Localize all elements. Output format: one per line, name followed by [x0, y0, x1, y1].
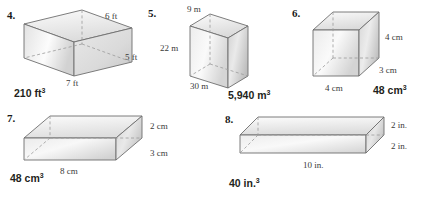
answer-5-exponent: 3: [267, 89, 271, 96]
dimension-label-6-width: 4 cm: [325, 84, 343, 93]
answer-8-value: 40 in.: [229, 177, 256, 189]
figure-prism-6: [311, 10, 387, 88]
answer-6-value: 48 cm: [373, 84, 403, 96]
answer-4-exponent: 3: [41, 87, 45, 94]
dimension-label-7-width: 8 cm: [60, 167, 78, 176]
answer-7: 48 cm3: [10, 173, 44, 184]
dimension-label-6-depth: 3 cm: [379, 66, 397, 75]
problem-4: 4.: [0, 0, 145, 105]
dimension-label-7-depth: 3 cm: [150, 149, 168, 158]
problem-8: 8.: [195, 105, 421, 200]
figure-prism-7: [22, 112, 148, 170]
dimension-label-5-width: 30 m: [190, 82, 208, 91]
dimension-label-5-depth: 9 m: [187, 5, 201, 14]
problem-number-7: 7.: [7, 113, 15, 124]
problem-7: 7.: [0, 105, 195, 200]
dimension-label-7-height: 2 cm: [150, 122, 168, 131]
answer-8: 40 in.3: [229, 178, 260, 189]
problem-number-6: 6.: [292, 8, 300, 19]
dimension-label-8-depth: 2 in.: [391, 142, 407, 151]
figure-prism-5: [188, 12, 273, 92]
answer-7-value: 48 cm: [10, 172, 40, 184]
dimension-label-8-height: 2 in.: [391, 121, 407, 130]
dimension-label-4-height: 5 ft: [125, 53, 137, 62]
worksheet-page: 4.: [0, 0, 421, 200]
problem-5: 5.: [143, 0, 288, 105]
dimension-label-6-height: 4 cm: [385, 33, 403, 42]
figure-prism-8: [238, 113, 390, 161]
problem-6: 6.: [287, 0, 421, 105]
answer-6-exponent: 3: [403, 84, 407, 91]
dimension-label-4-width: 7 ft: [66, 79, 78, 88]
dimension-label-5-height: 22 m: [160, 44, 178, 53]
answer-5-value: 5,940 m: [228, 89, 267, 101]
answer-5: 5,940 m3: [228, 90, 270, 101]
problem-number-4: 4.: [7, 10, 15, 21]
answer-8-exponent: 3: [256, 177, 260, 184]
answer-7-exponent: 3: [40, 172, 44, 179]
dimension-label-4-depth: 6 ft: [105, 12, 117, 21]
answer-4: 210 ft3: [14, 88, 45, 99]
problem-number-5: 5.: [148, 8, 156, 19]
dimension-label-8-width: 10 in.: [303, 161, 324, 170]
answer-6: 48 cm3: [373, 85, 407, 96]
answer-4-value: 210 ft: [14, 87, 41, 99]
problem-number-8: 8.: [225, 114, 233, 125]
